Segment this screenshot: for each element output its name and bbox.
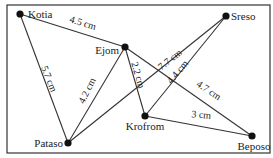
edge-labels: 4.5 cm5.7 cm4.2 cm2.2 cm4.7 cm7.7 cm4.4 … — [39, 13, 223, 120]
node-dot-pataso — [64, 139, 71, 146]
edge-label-kotia-ejom: 4.5 cm — [68, 13, 97, 32]
node-label-kotia: Kotia — [28, 8, 53, 20]
node-dot-sreso — [222, 12, 229, 19]
edge-label-ejom-pataso: 4.2 cm — [76, 76, 98, 105]
node-dot-kotia — [16, 10, 23, 17]
edge-label-ejom-krofrom: 2.2 cm — [129, 60, 147, 89]
edge-label-kotia-pataso: 5.7 cm — [39, 64, 59, 94]
route-diagram: 4.5 cm5.7 cm4.2 cm2.2 cm4.7 cm7.7 cm4.4 … — [0, 0, 273, 158]
edge-ejom-pataso — [68, 47, 125, 143]
node-label-ejom: Ejom — [95, 44, 119, 56]
node-dot-krofrom — [141, 112, 148, 119]
node-label-krofrom: Krofrom — [126, 120, 165, 132]
node-dot-beposo — [248, 132, 255, 139]
node-label-sreso: Sreso — [231, 10, 256, 22]
node-label-pataso: Pataso — [34, 137, 63, 149]
node-dot-ejom — [121, 43, 128, 50]
node-label-beposo: Beposo — [238, 140, 272, 152]
edge-label-krofrom-beposo: 3 cm — [191, 108, 212, 120]
